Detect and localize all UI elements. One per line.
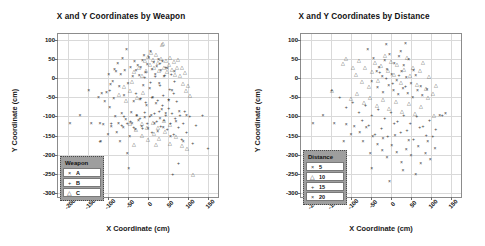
legend-entry-label: C — [76, 190, 80, 196]
data-point-C: △ — [191, 171, 195, 176]
data-point-10: △ — [402, 66, 406, 71]
data-point-10: △ — [392, 71, 396, 76]
data-point-A: × — [116, 60, 119, 65]
y-tick-mark — [298, 40, 301, 41]
data-point-A: × — [130, 109, 133, 114]
legend-entry[interactable]: △10 — [306, 172, 344, 181]
legend-entry[interactable]: △C — [63, 188, 101, 197]
y-tick-label: -150 — [43, 133, 55, 139]
data-point-15: + — [390, 109, 393, 114]
y-tick-label: 0 — [295, 75, 298, 81]
data-point-10: △ — [395, 61, 399, 66]
data-point-B: + — [156, 98, 159, 103]
data-point-C: △ — [154, 52, 158, 57]
x-tick-label: 150 — [204, 198, 215, 209]
data-point-10: △ — [363, 64, 367, 69]
gridline-horizontal — [58, 136, 218, 137]
data-point-20: × — [376, 142, 379, 147]
data-point-5: × — [392, 87, 395, 92]
data-point-15: + — [380, 125, 383, 130]
data-point-B: + — [188, 114, 191, 119]
data-point-C: △ — [140, 132, 144, 137]
data-point-A: × — [79, 112, 82, 117]
data-point-15: + — [338, 95, 341, 100]
data-point-10: △ — [432, 112, 436, 117]
data-point-20: × — [394, 132, 397, 137]
triangle-icon: △ — [66, 190, 73, 196]
data-point-20: × — [381, 148, 384, 153]
data-point-C: △ — [185, 145, 189, 150]
data-point-A: × — [69, 121, 72, 126]
data-point-10: △ — [408, 73, 412, 78]
data-point-C: △ — [132, 142, 136, 147]
data-point-15: + — [396, 119, 399, 124]
data-point-B: + — [167, 97, 170, 102]
data-point-20: × — [358, 129, 361, 134]
y-tick-label: -200 — [286, 152, 298, 158]
data-point-20: × — [342, 139, 345, 144]
data-point-B: + — [153, 111, 156, 116]
data-point-B: + — [120, 122, 123, 127]
data-point-15: + — [361, 117, 364, 122]
data-point-15: + — [434, 126, 437, 131]
data-point-B: + — [159, 83, 162, 88]
data-point-20: × — [312, 121, 315, 126]
data-point-C: △ — [162, 117, 166, 122]
data-point-C: △ — [163, 129, 167, 134]
data-point-10: △ — [405, 55, 409, 60]
data-point-20: × — [350, 131, 353, 136]
data-point-A: × — [114, 114, 117, 119]
legend-weapon[interactable]: Weapon ×A+B△C — [60, 156, 104, 201]
data-point-15: + — [330, 87, 333, 92]
data-point-15: + — [364, 102, 367, 107]
data-point-20: × — [424, 150, 427, 155]
data-point-A: × — [121, 56, 124, 61]
data-point-10: △ — [357, 57, 361, 62]
data-point-15: + — [370, 112, 373, 117]
legend-entry[interactable]: ×5 — [306, 162, 344, 171]
y-tick-label: -50 — [289, 94, 298, 100]
data-point-10: △ — [376, 78, 380, 83]
data-point-B: + — [123, 114, 126, 119]
data-point-20: × — [410, 152, 413, 157]
data-point-5: × — [382, 89, 385, 94]
y-tick-label: -250 — [43, 171, 55, 177]
data-point-A: × — [107, 72, 110, 77]
legend-entry[interactable]: +B — [63, 178, 101, 187]
data-point-5: × — [376, 84, 379, 89]
data-point-20: × — [429, 156, 432, 161]
data-point-B: + — [207, 145, 210, 150]
data-point-B: + — [144, 99, 147, 104]
gridline-vertical — [128, 34, 129, 197]
y-tick-label: -100 — [286, 113, 298, 119]
legend-entry[interactable]: ×20 — [306, 192, 344, 201]
data-point-A: × — [115, 69, 118, 74]
legend-distance[interactable]: Distance ×5△10+15×20 — [303, 150, 347, 205]
legend-entry[interactable]: +15 — [306, 182, 344, 191]
data-point-C: △ — [156, 125, 160, 130]
x-tick-label: 50 — [409, 200, 418, 209]
data-point-5: × — [419, 83, 422, 88]
legend-entry[interactable]: ×A — [63, 168, 101, 177]
data-point-A: × — [148, 85, 151, 90]
y-tick-mark — [298, 78, 301, 79]
chart-panel-distance: X and Y Coordinates by Distance Y Coordi… — [243, 0, 485, 246]
data-point-B: + — [195, 122, 198, 127]
y-tick-mark — [55, 136, 58, 137]
data-point-10: △ — [383, 53, 387, 58]
data-point-C: △ — [117, 92, 121, 97]
data-point-10: △ — [399, 79, 403, 84]
data-point-A: × — [126, 151, 129, 156]
data-point-15: + — [422, 124, 425, 129]
data-point-5: × — [387, 83, 390, 88]
data-point-C: △ — [180, 143, 184, 148]
data-point-20: × — [370, 166, 373, 171]
x-tick-label: 100 — [427, 198, 438, 209]
data-point-C: △ — [128, 87, 132, 92]
data-point-B: + — [162, 93, 165, 98]
data-point-5: × — [399, 49, 402, 54]
data-point-5: × — [370, 79, 373, 84]
data-point-15: + — [399, 129, 402, 134]
y-tick-mark — [298, 174, 301, 175]
x-tick-label: 50 — [166, 200, 175, 209]
